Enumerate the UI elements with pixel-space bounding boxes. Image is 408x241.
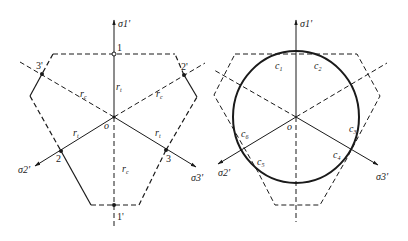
svg-text:c2: c2 — [314, 60, 321, 72]
svg-text:rc: rc — [156, 88, 163, 100]
svg-text:rc: rc — [80, 88, 87, 100]
origin-label-left: o — [104, 120, 109, 131]
svg-text:c4: c4 — [333, 149, 340, 161]
left-points — [40, 52, 186, 207]
left-figure: σ1' σ2' σ3' o 1 1' 2 2' 3 3' rt rc rc rt… — [18, 18, 205, 226]
origin-marker — [112, 115, 115, 118]
svg-text:c1: c1 — [275, 60, 282, 72]
svg-text:c6: c6 — [241, 128, 248, 140]
point-2-label: 2 — [56, 153, 61, 164]
point-1-label: 1 — [117, 42, 122, 53]
radius-labels-left: rt rc rc rt rt rc — [73, 81, 163, 175]
contact-labels: c1 c2 c3 c4 c5 c6 — [241, 60, 356, 168]
point-2p-marker — [182, 73, 186, 77]
sigma1-label-right: σ1' — [300, 18, 313, 29]
right-figure: σ1' σ2' σ3' o c1 c2 c3 c4 c5 c6 — [214, 18, 389, 222]
svg-text:rt: rt — [73, 127, 79, 139]
point-3p-label: 3' — [36, 60, 43, 71]
svg-text:c3: c3 — [349, 123, 356, 135]
point-1p-label: 1' — [117, 211, 124, 222]
sigma2-label-right: σ2' — [218, 167, 231, 178]
svg-text:rt: rt — [116, 81, 122, 93]
svg-text:c5: c5 — [257, 156, 264, 168]
sigma1-label-left: σ1' — [118, 18, 131, 29]
yield-surface-diagram: σ1' σ2' σ3' o 1 1' 2 2' 3 3' rt rc rc rt… — [0, 0, 408, 241]
left-axes — [20, 20, 205, 226]
point-1-marker — [112, 52, 116, 56]
sigma3-label-right: σ3' — [376, 171, 389, 182]
svg-text:rc: rc — [122, 163, 129, 175]
svg-text:rt: rt — [155, 127, 161, 139]
point-3p-marker — [40, 72, 44, 76]
point-3-label: 3 — [166, 153, 171, 164]
sigma3-label-left: σ3' — [191, 172, 204, 183]
point-2p-label: 2' — [181, 61, 188, 72]
sigma2-label-left: σ2' — [18, 164, 31, 175]
origin-label-right: o — [287, 121, 292, 132]
point-3-marker — [164, 148, 168, 152]
point-1p-marker — [112, 203, 116, 207]
